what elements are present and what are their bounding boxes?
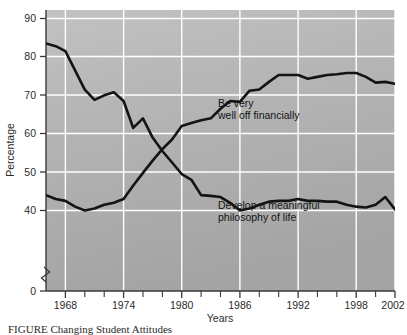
annotation-philosophy-line1: Develop a meaningful: [218, 199, 320, 211]
x-tick-label-1968: 1968: [54, 299, 78, 311]
annotation-well-off-line2: well off financially: [217, 109, 300, 121]
y-tick-label-50: 50: [24, 166, 36, 178]
x-tick-label-1974: 1974: [112, 299, 136, 311]
y-axis-title: Percentage: [4, 123, 16, 177]
x-tick-label-1992: 1992: [286, 299, 310, 311]
x-tick-label-2002: 2002: [381, 299, 405, 311]
x-tick-label-1986: 1986: [228, 299, 252, 311]
plot-background: [46, 10, 395, 291]
y-tick-label-80: 80: [24, 50, 36, 62]
y-tick-label-60: 60: [24, 127, 36, 139]
x-tick-label-1998: 1998: [345, 299, 369, 311]
y-tick-label-70: 70: [24, 89, 36, 101]
annotation-philosophy-line2: philosophy of life: [218, 211, 296, 223]
y-tick-label-40: 40: [24, 204, 36, 216]
y-tick-label-0: 0: [30, 285, 36, 297]
figure-caption: FIGURE Changing Student Attitudes: [8, 323, 407, 335]
x-tick-label-1980: 1980: [170, 299, 194, 311]
y-tick-label-90: 90: [24, 12, 36, 24]
annotation-well-off-line1: Be very: [218, 97, 254, 109]
